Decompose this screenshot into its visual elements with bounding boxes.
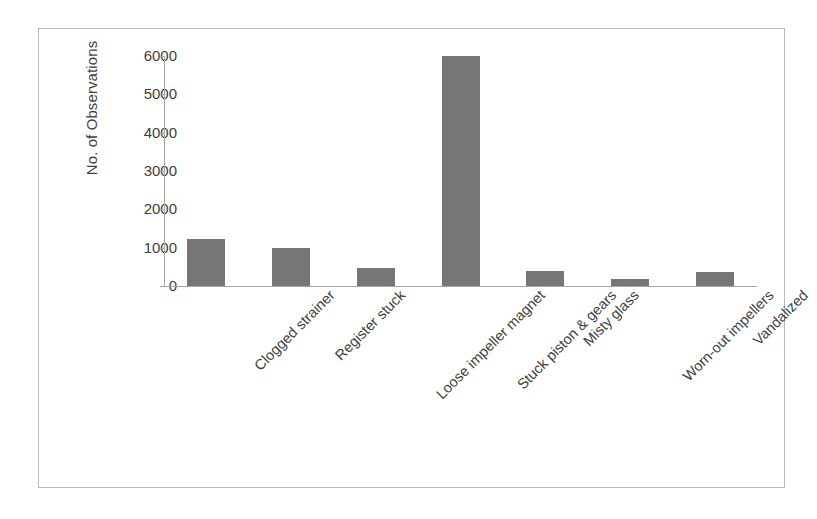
x-axis-tick-label: Clogged strainer [252, 287, 339, 374]
bar[interactable] [272, 248, 310, 286]
bar[interactable] [442, 56, 480, 286]
bar[interactable] [611, 279, 649, 286]
figure-canvas: No. of Observations 60005000400030002000… [0, 0, 817, 519]
x-axis-tick-label: Register stuck [332, 287, 408, 363]
chart-frame: No. of Observations 60005000400030002000… [38, 28, 785, 488]
bar[interactable] [187, 239, 225, 286]
bar[interactable] [696, 272, 734, 286]
bar[interactable] [357, 268, 395, 286]
plot-area [164, 56, 757, 286]
bar[interactable] [526, 271, 564, 286]
bar-series [164, 56, 757, 286]
x-axis-tick-labels: Clogged strainerRegister stuckLoose impe… [164, 287, 757, 487]
